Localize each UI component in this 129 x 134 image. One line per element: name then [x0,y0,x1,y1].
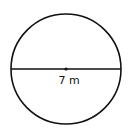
circle-diagram: 7 m [0,0,129,134]
diameter-label: 7 m [58,74,79,87]
center-point [64,67,67,70]
